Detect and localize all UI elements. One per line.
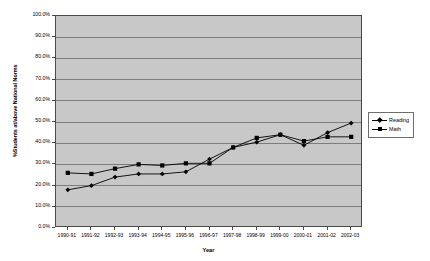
x-axis-tick-mark <box>209 227 210 230</box>
data-point-diamond <box>136 172 141 177</box>
y-axis-tick-label: 30.0% <box>0 160 50 165</box>
data-point-square <box>325 135 329 139</box>
x-axis-tick-mark <box>138 227 139 230</box>
reading-marker-icon <box>372 116 387 125</box>
y-axis-tick-label: 100.0% <box>0 12 50 17</box>
y-axis-tick-label: 90.0% <box>0 33 50 38</box>
data-point-square <box>207 161 211 165</box>
data-point-square <box>255 136 259 140</box>
data-point-diamond <box>183 169 188 174</box>
data-point-diamond <box>349 121 354 126</box>
x-axis-title: Year <box>55 248 362 254</box>
legend-label-math: Math <box>387 127 401 132</box>
series-reading <box>65 121 353 193</box>
data-point-diamond <box>254 140 259 145</box>
data-point-square <box>89 172 93 176</box>
y-axis-tick-label: 60.0% <box>0 97 50 102</box>
series-line <box>68 123 351 190</box>
series-line <box>68 135 351 174</box>
chart-legend: Reading Math <box>368 112 414 138</box>
y-axis-tick-label: 40.0% <box>0 139 50 144</box>
x-axis-tick-mark <box>327 227 328 230</box>
legend-item-math[interactable]: Math <box>372 125 409 134</box>
x-axis-tick-mark <box>256 227 257 230</box>
data-point-square <box>302 139 306 143</box>
line-chart: %Students at/above National Norms 100.0%… <box>0 0 430 261</box>
data-point-diamond <box>207 157 212 162</box>
x-axis-tick-mark <box>185 227 186 230</box>
y-axis-title: %Students at/above National Norms <box>13 51 18 171</box>
y-axis-tick-label: 80.0% <box>0 54 50 59</box>
y-axis-tick-label: 70.0% <box>0 76 50 81</box>
data-point-diamond <box>325 130 330 135</box>
data-point-square <box>113 167 117 171</box>
data-point-diamond <box>65 187 70 192</box>
y-axis-tick-label: 0.0% <box>0 224 50 229</box>
series-math <box>66 133 354 176</box>
plot-area <box>55 15 362 227</box>
y-axis-tick-mark <box>52 227 55 228</box>
data-point-square <box>66 171 70 175</box>
data-point-diamond <box>160 172 165 177</box>
y-axis-tick-label: 20.0% <box>0 182 50 187</box>
x-axis-tick-mark <box>350 227 351 230</box>
math-marker-icon <box>372 125 387 134</box>
data-point-diamond <box>302 143 307 148</box>
data-point-square <box>278 133 282 137</box>
x-axis-tick-mark <box>303 227 304 230</box>
data-point-square <box>137 162 141 166</box>
x-axis-tick-label: 2002-03 <box>336 233 364 238</box>
data-point-diamond <box>89 183 94 188</box>
y-axis-tick-label: 50.0% <box>0 118 50 123</box>
data-point-square <box>349 135 353 139</box>
legend-label-reading: Reading <box>387 118 409 123</box>
x-axis-tick-mark <box>67 227 68 230</box>
legend-item-reading[interactable]: Reading <box>372 116 409 125</box>
x-axis-tick-mark <box>232 227 233 230</box>
x-axis-tick-mark <box>114 227 115 230</box>
x-axis-tick-mark <box>279 227 280 230</box>
series-layer <box>56 16 363 228</box>
data-point-square <box>231 145 235 149</box>
x-axis-tick-mark <box>90 227 91 230</box>
data-point-diamond <box>113 175 118 180</box>
data-point-square <box>160 163 164 167</box>
y-axis-tick-label: 10.0% <box>0 203 50 208</box>
x-axis-tick-mark <box>161 227 162 230</box>
data-point-square <box>184 161 188 165</box>
